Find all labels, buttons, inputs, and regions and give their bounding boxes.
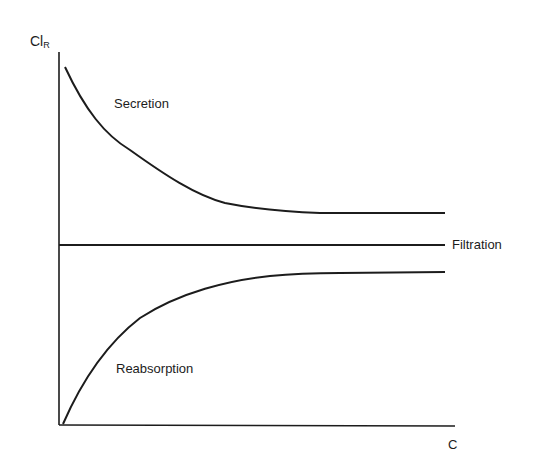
secretion-curve: [65, 67, 445, 213]
x-axis-label: C: [448, 437, 457, 452]
y-axis-label-main: Cl: [30, 33, 43, 49]
y-axis-label: ClR: [30, 33, 50, 50]
reabsorption-label: Reabsorption: [116, 361, 193, 376]
y-axis-label-subscript: R: [43, 40, 50, 50]
filtration-label: Filtration: [452, 237, 502, 252]
x-axis: [59, 425, 455, 426]
secretion-label: Secretion: [114, 96, 169, 111]
reabsorption-curve: [63, 272, 445, 424]
chart-canvas: [0, 0, 549, 463]
